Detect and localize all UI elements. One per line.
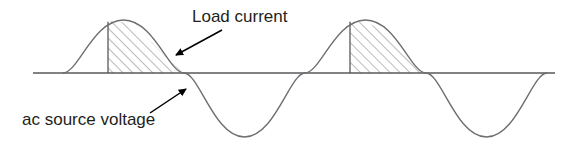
ac-source-voltage-leader-arrow	[150, 89, 186, 113]
load-current-leader-arrow	[176, 30, 222, 55]
load-current-hatched-regions	[108, 21, 426, 73]
ac-waveform-figure: Load current ac source voltage	[0, 0, 581, 145]
ac-source-voltage-label: ac source voltage	[22, 111, 155, 128]
load-current-label: Load current	[192, 8, 287, 25]
